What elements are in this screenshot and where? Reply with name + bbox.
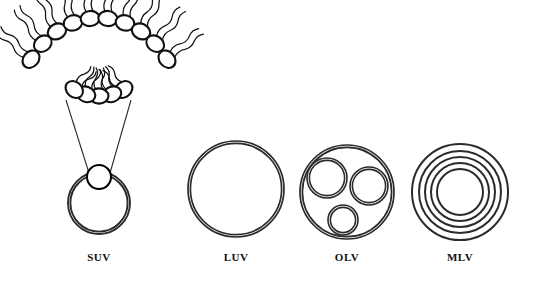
lipid-tail [146,0,166,28]
lipid-tail [111,0,118,12]
suv-bilayer-magnifier [87,165,111,189]
vesicle-suv: SUV [68,165,130,263]
vesicle-luv: LUV [188,141,284,263]
mlv-lamella-5 [437,169,483,215]
liposome-types-figure: SUVLUVOLVMLV [0,0,534,281]
olv-inner-vesicle-lower [328,205,358,235]
lipid-tail [122,0,135,16]
vesicle-luv-membrane [188,141,284,237]
lipid-tail [18,5,43,37]
olv-inner-vesicle-upper-right [350,167,388,205]
olv-inner-vesicle-upper-right-outer [350,167,388,205]
vesicle-label-olv: OLV [335,251,359,263]
olv-inner-vesicle-lower-outer [328,205,358,235]
lipid-tail [75,65,92,83]
vesicle-luv-membrane-inner [190,143,281,234]
vesicle-olv-membrane [300,145,394,239]
lipid-tail [88,0,95,11]
vesicle-mlv: MLV [412,144,508,263]
vesicle-olv-membrane-outer [300,145,394,239]
vesicle-label-mlv: MLV [447,251,473,263]
vesicle-olv: OLV [300,145,394,263]
lipid-tail [57,0,70,17]
phospholipid-bilayer-inset [0,0,206,105]
lipid-tail [129,0,142,18]
olv-inner-vesicle-lower-inner [330,207,355,232]
lipid-tail [103,0,110,11]
lipid-tail [155,6,180,38]
mlv-lamella-3 [425,157,495,227]
vesicle-label-luv: LUV [224,251,249,263]
suv-leader-line-right [110,100,131,173]
lipid-head-top [29,0,69,42]
vesicle-luv-membrane-outer [188,141,284,237]
olv-inner-vesicle-upper-right-inner [352,169,385,202]
olv-inner-vesicle-upper-left-outer [307,158,347,198]
mlv-lamella-4 [431,163,489,221]
mlv-lamella-1 [412,144,508,240]
lipid-tail [0,26,30,53]
lipid-tail [81,0,88,12]
lipid-tail [40,0,60,24]
suv-leader-line-left [66,100,89,173]
olv-inner-vesicle-upper-left-inner [309,160,344,195]
lipid-head-ellipse [98,10,118,27]
figure-canvas: SUVLUVOLVMLV [0,0,534,281]
olv-inner-vesicle-upper-left [307,158,347,198]
vesicle-label-suv: SUV [87,251,111,263]
